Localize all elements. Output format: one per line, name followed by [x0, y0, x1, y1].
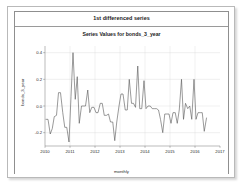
- y-tick-label: 0.2: [36, 77, 42, 82]
- panel-title-bar: 1st differenced series: [15, 12, 228, 27]
- output-panel: 1st differenced series Series Values for…: [7, 6, 235, 178]
- x-tick-label: 2017: [215, 149, 225, 154]
- chart-title: Series Values for bonds_3_year: [15, 32, 228, 37]
- screenshot-root: 1st differenced series Series Values for…: [0, 0, 242, 185]
- y-tick-label: -0.2: [35, 130, 43, 135]
- line-chart-svg: -0.20.00.20.4201020112012201320142015201…: [15, 40, 230, 166]
- x-tick-label: 2010: [40, 149, 50, 154]
- panel-title: 1st differenced series: [93, 16, 150, 21]
- x-tick-label: 2011: [65, 149, 75, 154]
- chart-body: Series Values for bonds_3_year bonds_3_y…: [15, 28, 228, 174]
- y-tick-label: 0.0: [36, 104, 42, 109]
- x-tick-label: 2013: [115, 149, 125, 154]
- x-tick-label: 2014: [140, 149, 150, 154]
- x-tick-label: 2016: [190, 149, 200, 154]
- y-tick-label: 0.4: [36, 50, 42, 55]
- chart-panel: 1st differenced series Series Values for…: [14, 11, 229, 174]
- x-tick-label: 2015: [165, 149, 175, 154]
- x-axis-title: monthly: [15, 170, 228, 174]
- x-tick-label: 2012: [90, 149, 100, 154]
- plot-area: -0.20.00.20.4201020112012201320142015201…: [15, 40, 230, 166]
